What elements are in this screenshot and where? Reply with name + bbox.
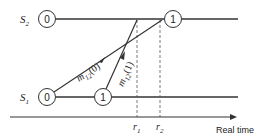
message-m12-0: m12(0) (54, 20, 162, 92)
s2-label: S2 (20, 13, 30, 28)
axis-label: Real time (216, 125, 254, 135)
s1-label: S1 (20, 91, 29, 106)
timing-diagram: S2 0 1 S1 0 1 m12(0) m12(1) r1 r2 Real t… (0, 0, 262, 139)
axis-arrow-icon (230, 114, 237, 120)
message-m12-1-label: m12(1) (115, 60, 138, 89)
s1-event-0-label: 0 (44, 92, 50, 103)
s2-event-1-label: 1 (170, 14, 176, 25)
r2-label: r2 (156, 121, 164, 135)
message-m12-0-label: m12(0) (74, 60, 103, 86)
process-s1: S1 0 1 (20, 89, 238, 107)
s2-event-0-label: 0 (44, 14, 50, 25)
s1-event-1-label: 1 (100, 92, 106, 103)
r1-label: r1 (133, 121, 140, 135)
real-time-axis: r1 r2 Real time (10, 114, 254, 135)
arrowhead-icon (99, 57, 105, 63)
process-s2: S2 0 1 (20, 11, 238, 29)
message-m12-0-arrow (54, 20, 162, 92)
